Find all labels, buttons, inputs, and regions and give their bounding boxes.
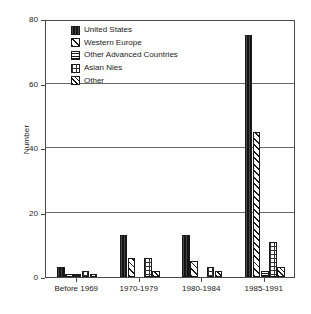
- legend-item: United States: [71, 24, 221, 37]
- y-axis-tick-label: 40: [8, 145, 38, 153]
- chart-legend: United StatesWestern EuropeOther Advance…: [71, 24, 221, 87]
- bar: [182, 235, 190, 277]
- y-axis-tick-label: 0: [8, 274, 38, 282]
- legend-swatch-icon: [71, 64, 80, 73]
- bar: [152, 271, 160, 277]
- bar: [215, 271, 223, 277]
- x-axis-tick-mark: [139, 278, 140, 282]
- x-axis-tick-mark: [201, 278, 202, 282]
- plot-area: United StatesWestern EuropeOther Advance…: [45, 20, 295, 278]
- y-axis-tick-label: 80: [8, 16, 38, 24]
- bar: [207, 267, 215, 277]
- bar: [73, 274, 81, 277]
- legend-item-label: Other Advanced Countries: [84, 51, 178, 59]
- bar: [120, 235, 128, 277]
- legend-item-label: Other: [84, 77, 104, 85]
- bar: [269, 242, 277, 277]
- chart-figure: Number 020406080 United StatesWestern Eu…: [0, 0, 311, 314]
- legend-item-label: Western Europe: [84, 39, 142, 47]
- y-axis-title: Number: [22, 100, 31, 180]
- legend-swatch-icon: [71, 26, 80, 35]
- legend-item: Other Advanced Countries: [71, 49, 221, 62]
- bar: [253, 132, 261, 277]
- x-axis-tick-label: Before 1969: [41, 285, 111, 293]
- x-axis-tick-mark: [264, 278, 265, 282]
- bar: [277, 267, 285, 277]
- legend-swatch-icon: [71, 51, 80, 60]
- legend-swatch-icon: [71, 76, 80, 85]
- bar: [82, 271, 90, 277]
- bar: [57, 267, 65, 277]
- legend-swatch-icon: [71, 38, 80, 47]
- bar: [90, 274, 98, 277]
- y-axis-tick-label: 60: [8, 81, 38, 89]
- x-axis-tick-label: 1980-1984: [166, 285, 236, 293]
- bar: [65, 274, 73, 277]
- x-axis-tick-label: 1985-1991: [229, 285, 299, 293]
- bar: [128, 258, 136, 277]
- bar: [144, 258, 152, 277]
- bar: [190, 261, 198, 277]
- x-axis-tick-label: 1970-1979: [104, 285, 174, 293]
- legend-item: Western Europe: [71, 37, 221, 50]
- legend-item: Other: [71, 74, 221, 87]
- legend-item-label: United States: [84, 26, 132, 34]
- x-axis-tick-mark: [76, 278, 77, 282]
- y-axis-tick-mark: [41, 278, 45, 279]
- bar: [245, 35, 253, 277]
- legend-item-label: Asian Nies: [84, 64, 122, 72]
- bar: [261, 271, 269, 277]
- y-axis-tick-label: 20: [8, 210, 38, 218]
- legend-item: Asian Nies: [71, 62, 221, 75]
